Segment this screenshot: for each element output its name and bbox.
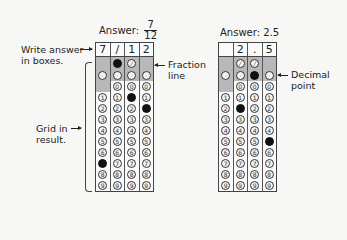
digit-bubble[interactable]: 3 [250, 115, 259, 124]
digit-bubble[interactable]: 9 [113, 181, 122, 190]
digit-bubble[interactable]: 6 [127, 148, 136, 157]
digit-bubble[interactable]: 2 [142, 104, 151, 113]
digit-bubble[interactable]: 3 [265, 115, 274, 124]
decimal-bubble[interactable]: · [250, 71, 259, 80]
digit-bubble[interactable]: 7 [250, 159, 259, 168]
digit-bubble[interactable]: 7 [236, 159, 245, 168]
digit-bubble[interactable]: 6 [265, 148, 274, 157]
digit-bubble[interactable]: 7 [98, 159, 107, 168]
digit-bubble[interactable]: 3 [236, 115, 245, 124]
digit-bubble[interactable]: 6 [142, 148, 151, 157]
decimal-bubble[interactable]: · [265, 71, 274, 80]
digit-bubble[interactable]: 4 [265, 126, 274, 135]
digit-bubble[interactable]: 5 [127, 137, 136, 146]
digit-bubble[interactable]: 7 [265, 159, 274, 168]
decimal-bubble[interactable]: · [142, 71, 151, 80]
digit-bubble[interactable]: 2 [98, 104, 107, 113]
digit-bubble[interactable]: 3 [113, 115, 122, 124]
digit-bubble[interactable]: 0 [236, 82, 245, 91]
digit-bubble[interactable]: 1 [98, 93, 107, 102]
slash-bubble[interactable]: ⁄ [236, 59, 245, 68]
decimal-bubble[interactable]: · [221, 71, 230, 80]
digit-bubble[interactable]: 6 [236, 148, 245, 157]
digit-bubble[interactable]: 2 [221, 104, 230, 113]
digit-bubble[interactable]: 6 [221, 148, 230, 157]
digit-bubble[interactable]: 4 [127, 126, 136, 135]
digit-bubble[interactable]: 0 [265, 82, 274, 91]
digit-bubble[interactable]: 5 [113, 137, 122, 146]
digit-bubble[interactable]: 2 [236, 104, 245, 113]
digit-bubble[interactable]: 8 [127, 170, 136, 179]
digit-bubble[interactable]: 1 [113, 93, 122, 102]
digit-bubble[interactable]: 1 [250, 93, 259, 102]
digit-bubble[interactable]: 5 [265, 137, 274, 146]
digit-bubble[interactable]: 1 [127, 93, 136, 102]
digit-bubble[interactable]: 4 [221, 126, 230, 135]
digit-bubble[interactable]: 3 [142, 115, 151, 124]
digit-bubble[interactable]: 4 [250, 126, 259, 135]
digit-bubble[interactable]: 9 [98, 181, 107, 190]
slash-bubble[interactable]: ⁄ [250, 59, 259, 68]
slash-bubble[interactable]: ⁄ [113, 59, 122, 68]
digit-bubble[interactable]: 7 [127, 159, 136, 168]
digit-bubble[interactable]: 8 [221, 170, 230, 179]
digit-bubble[interactable]: 0 [142, 82, 151, 91]
answer-box[interactable]: 7 [96, 43, 110, 56]
digit-bubble[interactable]: 8 [236, 170, 245, 179]
digit-bubble[interactable]: 8 [250, 170, 259, 179]
digit-bubble[interactable]: 3 [127, 115, 136, 124]
answer-box[interactable]: . [247, 43, 262, 56]
digit-bubble[interactable]: 4 [113, 126, 122, 135]
digit-bubble[interactable]: 9 [250, 181, 259, 190]
digit-bubble[interactable]: 1 [236, 93, 245, 102]
digit-bubble[interactable]: 8 [142, 170, 151, 179]
digit-bubble[interactable]: 1 [221, 93, 230, 102]
answer-box[interactable]: 2 [233, 43, 248, 56]
digit-bubble[interactable]: 4 [236, 126, 245, 135]
answer-box[interactable]: / [110, 43, 125, 56]
digit-bubble[interactable]: 7 [142, 159, 151, 168]
slash-bubble[interactable]: ⁄ [127, 59, 136, 68]
digit-bubble[interactable]: 2 [127, 104, 136, 113]
decimal-cell: · [110, 69, 125, 81]
digit-bubble[interactable]: 1 [265, 93, 274, 102]
answer-box[interactable]: 1 [124, 43, 139, 56]
digit-bubble[interactable]: 5 [250, 137, 259, 146]
digit-bubble[interactable]: 0 [113, 82, 122, 91]
decimal-bubble[interactable]: · [113, 71, 122, 80]
decimal-bubble[interactable]: · [127, 71, 136, 80]
digit-bubble[interactable]: 9 [265, 181, 274, 190]
answer-box[interactable]: 2 [139, 43, 154, 56]
digit-bubble[interactable]: 5 [142, 137, 151, 146]
digit-bubble[interactable]: 2 [265, 104, 274, 113]
digit-bubble[interactable]: 6 [98, 148, 107, 157]
digit-bubble[interactable]: 1 [142, 93, 151, 102]
digit-bubble[interactable]: 4 [98, 126, 107, 135]
digit-bubble[interactable]: 6 [250, 148, 259, 157]
decimal-bubble[interactable]: · [98, 71, 107, 80]
digit-bubble[interactable]: 5 [221, 137, 230, 146]
digit-bubble[interactable]: 7 [113, 159, 122, 168]
digit-bubble[interactable]: 6 [113, 148, 122, 157]
digit-bubble[interactable]: 2 [250, 104, 259, 113]
digit-bubble[interactable]: 8 [113, 170, 122, 179]
digit-bubble[interactable]: 4 [142, 126, 151, 135]
digit-bubble[interactable]: 3 [221, 115, 230, 124]
digit-bubble[interactable]: 0 [250, 82, 259, 91]
digit-bubble[interactable]: 9 [142, 181, 151, 190]
digit-bubble[interactable]: 0 [127, 82, 136, 91]
digit-cell: 7 [219, 158, 233, 169]
digit-bubble[interactable]: 3 [98, 115, 107, 124]
digit-bubble[interactable]: 2 [113, 104, 122, 113]
decimal-bubble[interactable]: · [236, 71, 245, 80]
digit-bubble[interactable]: 7 [221, 159, 230, 168]
digit-bubble[interactable]: 5 [98, 137, 107, 146]
digit-bubble[interactable]: 8 [265, 170, 274, 179]
digit-bubble[interactable]: 8 [98, 170, 107, 179]
digit-bubble[interactable]: 5 [236, 137, 245, 146]
digit-bubble[interactable]: 9 [127, 181, 136, 190]
digit-bubble[interactable]: 9 [221, 181, 230, 190]
digit-bubble[interactable]: 9 [236, 181, 245, 190]
answer-box[interactable] [219, 43, 233, 56]
answer-box[interactable]: 5 [262, 43, 277, 56]
